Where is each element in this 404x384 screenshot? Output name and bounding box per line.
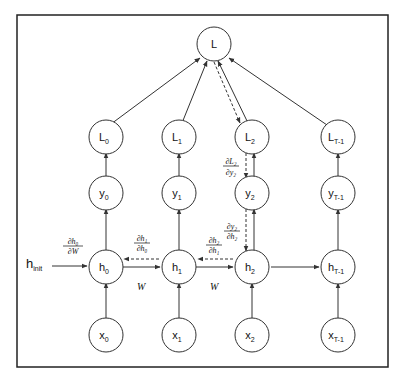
- loss-node-1: L1: [162, 120, 196, 154]
- grad-label-dh2-dh1: ∂h₂ ∂h₁: [206, 236, 222, 255]
- hidden-node-0: h0: [89, 250, 123, 284]
- rnn-bptt-diagram: L L0L1L2LT-1 y0y1y2yT-1 h0h1h2hT-1 x0x1x…: [0, 0, 404, 384]
- h-init-label: hinit: [26, 256, 42, 272]
- output-node-1: y1: [162, 176, 196, 210]
- svg-text:∂h₀: ∂h₀: [137, 244, 148, 253]
- svg-text:∂h₁: ∂h₁: [209, 246, 220, 255]
- svg-text:∂h₂: ∂h₂: [209, 236, 220, 245]
- loss-node-3: LT-1: [321, 120, 355, 154]
- grad-label-dy2-dh2: ∂y₂ ∂h₂: [224, 222, 240, 241]
- edge-L0-to-L: [111, 58, 200, 124]
- svg-text:∂y₂: ∂y₂: [227, 222, 238, 231]
- grad-label-dh1-dh0: ∂h₁ ∂h₀: [134, 234, 150, 253]
- svg-text:∂h₁: ∂h₁: [137, 234, 148, 243]
- hidden-node-3: hT-1: [321, 250, 355, 284]
- loss-node-L: L: [197, 27, 231, 61]
- input-node-1: x1: [162, 318, 196, 352]
- edge-L1-to-L: [182, 61, 207, 123]
- svg-text:∂y₂: ∂y₂: [226, 168, 237, 177]
- input-node-3: xT-1: [321, 318, 355, 352]
- svg-text:∂L₂: ∂L₂: [225, 157, 236, 166]
- output-node-0: y0: [89, 176, 123, 210]
- loss-node-row: L0L1L2LT-1: [89, 120, 355, 154]
- hidden-node-1: h1: [162, 250, 196, 284]
- loss-node-2: L2: [235, 120, 269, 154]
- edge-L2-to-L: [218, 61, 248, 123]
- svg-text:hinit: hinit: [26, 256, 42, 272]
- weight-label-W-2: W: [210, 281, 220, 292]
- loss-node-label: L: [211, 38, 217, 50]
- svg-text:∂h₂: ∂h₂: [227, 232, 238, 241]
- grad-label-dL2-dy2: ∂L₂ ∂y₂: [223, 157, 239, 177]
- input-node-row: x0x1x2xT-1: [89, 318, 355, 352]
- weight-label-W-1: W: [137, 281, 147, 292]
- grad-L-to-L2: [214, 62, 240, 123]
- grad-label-dh0-dW: ∂h₀ ∂W: [63, 237, 83, 256]
- svg-text:∂h₀: ∂h₀: [68, 237, 79, 246]
- svg-text:∂W: ∂W: [68, 247, 80, 256]
- output-node-2: y2: [235, 176, 269, 210]
- output-node-row: y0y1y2yT-1: [89, 176, 355, 210]
- hidden-node-2: h2: [235, 250, 269, 284]
- loss-node-0: L0: [89, 120, 123, 154]
- input-node-0: x0: [89, 318, 123, 352]
- output-node-3: yT-1: [321, 176, 355, 210]
- input-node-2: x2: [235, 318, 269, 352]
